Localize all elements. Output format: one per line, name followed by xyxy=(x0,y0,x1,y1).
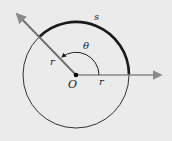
angle-arc-theta xyxy=(62,52,99,75)
radius-label-diagonal: r xyxy=(50,57,55,67)
radius-label-horizontal: r xyxy=(99,77,104,87)
origin-dot xyxy=(74,73,79,78)
arc-length-diagram: s θ r r O xyxy=(0,0,172,141)
origin-label: O xyxy=(68,79,77,90)
arc-label-s: s xyxy=(94,12,99,22)
diagram-canvas xyxy=(0,0,172,141)
angle-label-theta: θ xyxy=(83,41,89,51)
